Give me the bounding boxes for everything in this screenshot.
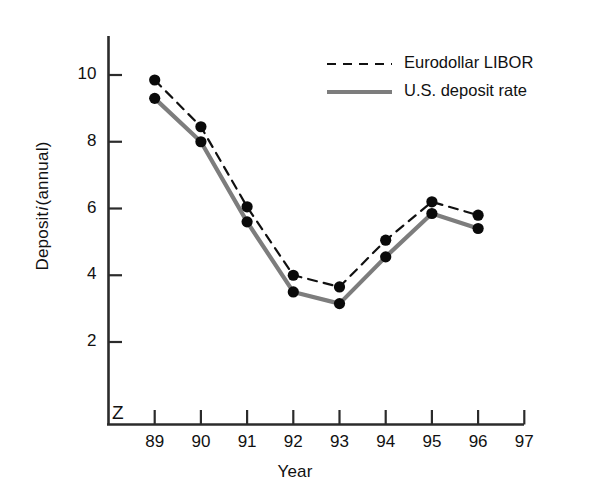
x-tick-label: 94 xyxy=(366,432,406,452)
y-tick-label: 8 xyxy=(57,131,97,151)
x-axis-title: Year xyxy=(0,462,590,482)
data-point-marker xyxy=(242,201,253,212)
legend-swatches xyxy=(327,64,392,92)
data-point-marker xyxy=(334,298,345,309)
x-tick-label: 96 xyxy=(458,432,498,452)
x-tick-label: 93 xyxy=(320,432,360,452)
y-axis-title: Depositi(annual) xyxy=(33,91,53,321)
data-point-marker xyxy=(473,223,484,234)
data-point-marker xyxy=(149,74,160,85)
data-point-marker xyxy=(334,281,345,292)
x-tick-label: 97 xyxy=(504,432,544,452)
y-axis-ticks xyxy=(109,75,123,342)
y-tick-label: 10 xyxy=(57,64,97,84)
data-point-marker xyxy=(288,270,299,281)
series-layer xyxy=(149,74,484,309)
y-tick-label: 4 xyxy=(57,264,97,284)
data-point-marker xyxy=(473,210,484,221)
x-tick-label: 95 xyxy=(412,432,452,452)
legend-label-2: U.S. deposit rate xyxy=(404,81,527,100)
x-tick-label: 90 xyxy=(181,432,221,452)
y-tick-label: 6 xyxy=(57,198,97,218)
data-point-marker xyxy=(380,251,391,262)
data-point-marker xyxy=(288,286,299,297)
data-point-marker xyxy=(195,121,206,132)
chart-container: Depositi(annual) Year 246810 89909192939… xyxy=(0,0,590,500)
data-point-marker xyxy=(242,216,253,227)
data-point-marker xyxy=(195,136,206,147)
series-line-1 xyxy=(155,80,478,287)
data-point-marker xyxy=(380,235,391,246)
x-tick-label: 92 xyxy=(273,432,313,452)
x-tick-label: 89 xyxy=(135,432,175,452)
y-axis-title-suffix: (annual) xyxy=(33,142,52,206)
axis-break-symbol: Z xyxy=(112,402,124,424)
x-axis-ticks xyxy=(155,410,525,425)
legend-label-1: Eurodollar LIBOR xyxy=(404,53,533,72)
x-tick-label: 91 xyxy=(227,432,267,452)
data-point-marker xyxy=(149,93,160,104)
y-axis-title-plain: Deposit xyxy=(33,211,52,270)
y-tick-label: 2 xyxy=(57,331,97,351)
data-point-marker xyxy=(426,208,437,219)
y-axis-title-italic: i xyxy=(33,205,52,211)
data-point-marker xyxy=(426,196,437,207)
